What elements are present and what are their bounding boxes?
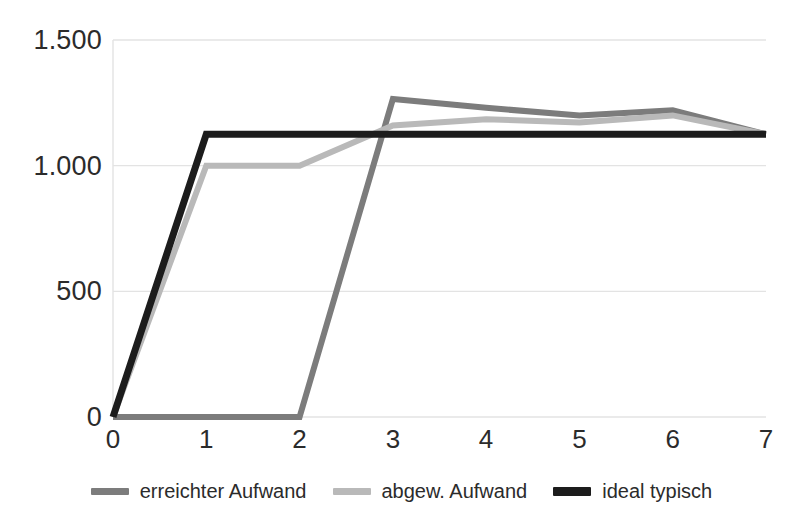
legend-swatch-icon (333, 488, 371, 495)
y-tick-label-500: 500 (2, 278, 102, 305)
plot-svg (113, 40, 766, 417)
legend-label: erreichter Aufwand (140, 479, 307, 503)
x-tick-label-4: 4 (456, 424, 516, 454)
plot-area (113, 40, 766, 417)
chart-legend: erreichter Aufwand abgew. Aufwand ideal … (0, 474, 803, 508)
gridlines (113, 40, 766, 417)
legend-swatch-icon (553, 487, 591, 496)
series-lines (113, 99, 766, 417)
legend-swatch-icon (91, 488, 129, 495)
series-line (113, 134, 766, 417)
x-axis: 0 1 2 3 4 5 6 7 (113, 424, 766, 458)
legend-item-erreichter-aufwand[interactable]: erreichter Aufwand (91, 479, 307, 503)
x-tick-label-5: 5 (549, 424, 609, 454)
x-tick-label-7: 7 (736, 424, 796, 454)
legend-item-ideal-typisch[interactable]: ideal typisch (553, 479, 712, 503)
legend-label: ideal typisch (602, 479, 712, 503)
x-tick-label-2: 2 (270, 424, 330, 454)
x-tick-label-0: 0 (83, 424, 143, 454)
legend-item-abgew-aufwand[interactable]: abgew. Aufwand (333, 479, 528, 503)
series-line (113, 99, 766, 417)
x-tick-label-3: 3 (363, 424, 423, 454)
x-tick-label-1: 1 (176, 424, 236, 454)
line-chart: 1.500 1.000 500 0 0 1 2 3 4 5 6 7 erreic… (0, 0, 803, 528)
legend-label: abgew. Aufwand (382, 479, 528, 503)
y-tick-label-1500: 1.500 (2, 27, 102, 54)
series-line (113, 115, 766, 417)
y-tick-label-1000: 1.000 (2, 153, 102, 180)
x-tick-label-6: 6 (643, 424, 703, 454)
